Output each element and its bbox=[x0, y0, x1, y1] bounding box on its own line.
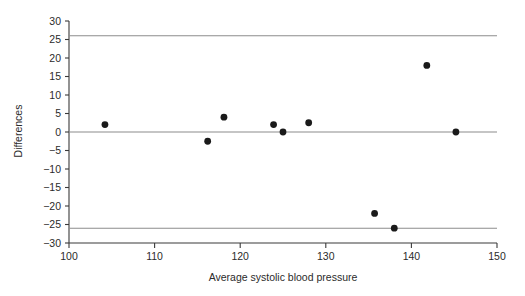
data-point-1 bbox=[204, 138, 211, 145]
data-point-5 bbox=[305, 119, 312, 126]
data-point-0 bbox=[102, 121, 109, 128]
data-point-8 bbox=[423, 62, 430, 69]
x-axis-title: Average systolic blood pressure bbox=[209, 271, 358, 283]
y-tick-label--25: −25 bbox=[43, 218, 61, 230]
y-tick-label--10: −10 bbox=[43, 163, 61, 175]
bland-altman-chart: 302520151050−5−10−15−20−25−3010011012013… bbox=[0, 0, 525, 296]
data-point-4 bbox=[280, 129, 287, 136]
data-points-group bbox=[102, 62, 460, 232]
x-tick-label-110: 110 bbox=[146, 250, 163, 262]
data-point-2 bbox=[221, 114, 228, 121]
data-point-3 bbox=[270, 121, 277, 128]
y-tick-label--30: −30 bbox=[43, 237, 61, 249]
y-tick-label-20: 20 bbox=[49, 52, 61, 64]
x-tick-label-140: 140 bbox=[403, 250, 421, 262]
data-point-7 bbox=[391, 225, 398, 232]
x-tick-label-100: 100 bbox=[60, 250, 78, 262]
y-tick-label--20: −20 bbox=[43, 200, 61, 212]
x-tick-label-130: 130 bbox=[317, 250, 335, 262]
y-tick-label-30: 30 bbox=[49, 15, 61, 27]
y-tick-label-25: 25 bbox=[49, 33, 61, 45]
data-point-9 bbox=[453, 129, 460, 136]
plot-canvas: 302520151050−5−10−15−20−25−3010011012013… bbox=[0, 0, 525, 296]
y-tick-label-10: 10 bbox=[49, 89, 61, 101]
x-tick-label-120: 120 bbox=[231, 250, 249, 262]
y-axis-title: Differences bbox=[12, 105, 24, 158]
y-tick-label-0: 0 bbox=[55, 126, 61, 138]
y-tick-label-15: 15 bbox=[49, 70, 61, 82]
x-tick-label-150: 150 bbox=[488, 250, 506, 262]
y-tick-label--15: −15 bbox=[43, 181, 61, 193]
y-tick-label--5: −5 bbox=[49, 144, 61, 156]
y-tick-label-5: 5 bbox=[55, 107, 61, 119]
tick-labels-group: 302520151050−5−10−15−20−25−3010011012013… bbox=[43, 15, 506, 262]
data-point-6 bbox=[371, 210, 378, 217]
